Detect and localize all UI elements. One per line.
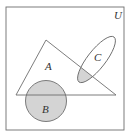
set-c-label: C xyxy=(94,51,102,63)
set-b-circle xyxy=(26,81,67,122)
venn-diagram: U A B C xyxy=(0,0,127,140)
set-b-label: B xyxy=(42,103,49,115)
universe-rectangle xyxy=(6,7,124,130)
set-a-label: A xyxy=(44,60,52,72)
universe-label: U xyxy=(114,9,123,21)
